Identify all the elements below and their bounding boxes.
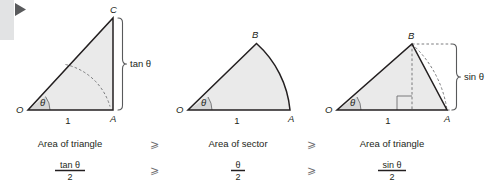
base-length-label-tangent: 1 (65, 115, 70, 126)
vertex-label-O-tangent: O (16, 104, 24, 115)
vertex-label-A-sine: A (443, 113, 450, 124)
base-length-label-sine: 1 (385, 115, 390, 126)
vertex-label-A-sector: A (287, 113, 294, 124)
formula-sector: θ 2 (231, 160, 245, 182)
vertex-label-B-sector: B (252, 29, 259, 40)
vertex-label-O-sine: O (325, 104, 333, 115)
panel-sector: O A B θ 1 (176, 29, 294, 126)
trig-area-comparison-figure: O A C θ 1 tan θ O A B θ 1 (0, 0, 488, 184)
angle-label-theta-tangent: θ (40, 97, 46, 108)
gray-block (0, 0, 14, 40)
formula-sector-numerator: θ (235, 160, 240, 170)
angle-label-theta-sine: θ (350, 97, 356, 108)
figure-container: O A C θ 1 tan θ O A B θ 1 (0, 0, 488, 184)
vertex-label-A-tangent: A (109, 113, 116, 124)
play-triangle-marker (15, 3, 26, 16)
caption-sine: Area of triangle (360, 138, 424, 149)
formula-sector-denominator: 2 (235, 172, 240, 182)
base-length-label-sector: 1 (234, 115, 239, 126)
formula-tangent-numerator: tan θ (60, 160, 80, 170)
panel-sine: O A B θ 1 sin θ (325, 30, 484, 126)
formula-tangent-denominator: 2 (67, 172, 72, 182)
measure-label-sine: sin θ (464, 71, 484, 82)
measure-bracket-tangent (118, 18, 127, 110)
formula-row: tan θ 2 ⩾ θ 2 ⩾ sin θ 2 (55, 160, 406, 182)
angle-label-theta-sector: θ (201, 97, 207, 108)
vertex-label-C-tangent: C (110, 4, 117, 15)
formula-sine-denominator: 2 (389, 172, 394, 182)
caption-tangent: Area of triangle (38, 138, 102, 149)
formula-sine-numerator: sin θ (382, 160, 401, 170)
measure-bracket-sine (452, 44, 461, 110)
measure-label-tangent: tan θ (130, 58, 151, 69)
inequality-formula-2: ⩾ (307, 164, 316, 176)
vertex-label-O-sector: O (176, 104, 184, 115)
formula-sine: sin θ 2 (378, 160, 406, 182)
panel-tangent: O A C θ 1 tan θ (16, 4, 151, 126)
inequality-caption-2: ⩾ (307, 138, 316, 150)
inequality-formula-1: ⩾ (150, 164, 159, 176)
formula-tangent: tan θ 2 (55, 160, 85, 182)
caption-sector: Area of sector (208, 138, 267, 149)
vertex-label-B-sine: B (408, 30, 415, 41)
inequality-caption-1: ⩾ (150, 138, 159, 150)
caption-row: Area of triangle ⩾ Area of sector ⩾ Area… (38, 138, 424, 150)
